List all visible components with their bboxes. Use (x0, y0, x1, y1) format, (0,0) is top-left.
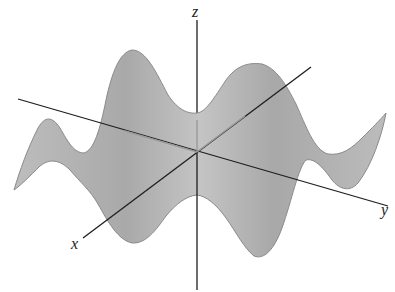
surface-diagram: z y x (0, 0, 395, 292)
surface (14, 50, 386, 257)
z-axis-label: z (191, 3, 199, 20)
y-axis-label: y (379, 201, 389, 219)
x-axis-label: x (70, 235, 78, 252)
